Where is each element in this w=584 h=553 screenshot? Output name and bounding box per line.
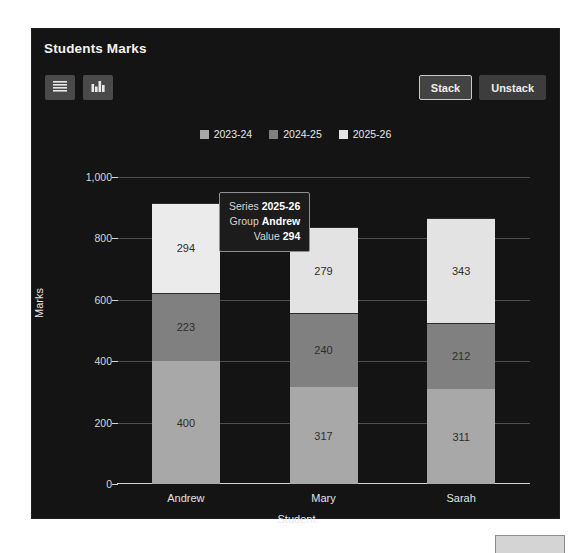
x-tick-label-sarah: Sarah xyxy=(446,492,475,504)
bar-segment-sarah-2025-26[interactable]: 343 xyxy=(427,218,495,323)
tooltip-series-key: Series xyxy=(229,200,259,212)
bar-segment-andrew-2023-24[interactable]: 400 xyxy=(152,361,220,484)
y-tick-mark-200 xyxy=(112,423,118,424)
x-tick-label-andrew: Andrew xyxy=(167,492,204,504)
legend-swatch-0 xyxy=(200,130,209,139)
legend-swatch-1 xyxy=(269,130,278,139)
bar-segment-mary-2023-24[interactable]: 317 xyxy=(290,387,358,484)
chart-toolbar-left xyxy=(45,75,113,100)
tooltip-value-row: Value 294 xyxy=(229,229,300,244)
bar-value-label: 212 xyxy=(452,350,470,362)
bar-segment-andrew-2025-26[interactable]: 294 xyxy=(152,203,220,293)
chart-tooltip: Series 2025-26 Group Andrew Value 294 xyxy=(219,192,310,252)
corner-box[interactable] xyxy=(495,535,565,553)
tooltip-series-value: 2025-26 xyxy=(262,200,301,212)
y-tick-mark-0 xyxy=(112,484,118,485)
y-axis-ticks: 02004006008001,000 xyxy=(68,177,112,484)
chart-toolbar-right: Stack Unstack xyxy=(419,75,546,100)
bar-chart-icon-button[interactable] xyxy=(83,75,113,100)
bar-segment-sarah-2023-24[interactable]: 311 xyxy=(427,389,495,484)
bar-value-label: 311 xyxy=(452,431,470,443)
chart-legend: 2023-24 2024-25 2025-26 xyxy=(32,128,559,140)
bar-value-label: 240 xyxy=(314,344,332,356)
bar-segment-sarah-2024-25[interactable]: 212 xyxy=(427,323,495,388)
legend-label-1: 2024-25 xyxy=(283,128,322,140)
y-tick-mark-1000 xyxy=(112,177,118,178)
y-tick-label-400: 400 xyxy=(94,355,112,367)
y-tick-label-200: 200 xyxy=(94,417,112,429)
y-tick-label-600: 600 xyxy=(94,294,112,306)
stack-button[interactable]: Stack xyxy=(419,75,472,100)
tooltip-value-value: 294 xyxy=(283,230,301,242)
chart-card: Students Marks xyxy=(31,28,560,519)
screenshot-root: Students Marks xyxy=(0,0,584,553)
bar-group-sarah: 311212343 xyxy=(427,177,495,484)
menu-icon xyxy=(53,80,67,95)
unstack-button[interactable]: Unstack xyxy=(479,75,546,100)
y-tick-mark-400 xyxy=(112,361,118,362)
legend-label-2: 2025-26 xyxy=(353,128,392,140)
tooltip-group-row: Group Andrew xyxy=(229,214,300,229)
tooltip-group-value: Andrew xyxy=(262,215,301,227)
tooltip-value-key: Value xyxy=(254,230,280,242)
bar-segment-mary-2024-25[interactable]: 240 xyxy=(290,313,358,387)
y-tick-mark-800 xyxy=(112,238,118,239)
legend-item-1[interactable]: 2024-25 xyxy=(269,128,322,140)
legend-item-2[interactable]: 2025-26 xyxy=(339,128,392,140)
y-tick-label-800: 800 xyxy=(94,232,112,244)
x-tick-label-mary: Mary xyxy=(311,492,335,504)
bar-segment-andrew-2024-25[interactable]: 223 xyxy=(152,293,220,361)
legend-swatch-2 xyxy=(339,130,348,139)
bar-value-label: 317 xyxy=(314,430,332,442)
menu-icon-button[interactable] xyxy=(45,75,75,100)
y-tick-mark-600 xyxy=(112,300,118,301)
page-title: Students Marks xyxy=(44,41,147,56)
bar-value-label: 279 xyxy=(314,265,332,277)
y-axis-title: Marks xyxy=(33,288,45,318)
x-axis-title: Student xyxy=(32,513,561,525)
bar-group-andrew: 400223294 xyxy=(152,177,220,484)
tooltip-group-key: Group xyxy=(230,215,259,227)
y-tick-label-1000: 1,000 xyxy=(86,171,112,183)
legend-item-0[interactable]: 2023-24 xyxy=(200,128,253,140)
tooltip-series-row: Series 2025-26 xyxy=(229,199,300,214)
chart-plot: Marks 02004006008001,000 400223294317240… xyxy=(32,147,561,520)
legend-label-0: 2023-24 xyxy=(214,128,253,140)
bar-value-label: 294 xyxy=(177,242,195,254)
bar-value-label: 343 xyxy=(452,265,470,277)
bar-chart-icon xyxy=(91,80,105,95)
bar-value-label: 223 xyxy=(177,321,195,333)
plot-area: 400223294317240279311212343 xyxy=(117,177,530,484)
bar-value-label: 400 xyxy=(177,417,195,429)
